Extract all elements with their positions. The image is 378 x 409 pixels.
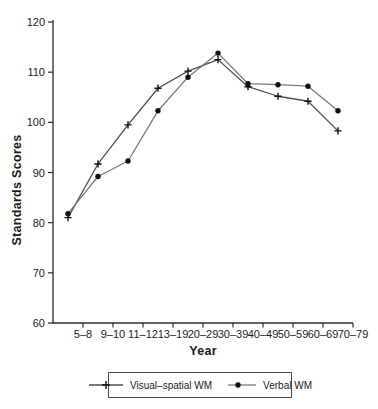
series-line-visual-spatial-wm [68,60,338,218]
y-tick-label: 70 [33,267,45,279]
circle-marker-verbal-wm [335,108,340,113]
y-tick-label: 60 [33,317,45,329]
x-tick-label: 13–19 [158,328,189,340]
y-tick-label: 80 [33,217,45,229]
x-tick-label: 9–10 [101,328,125,340]
y-tick-label: 100 [27,116,45,128]
plus-line-marker-icon [88,380,124,390]
y-tick-label: 120 [27,16,45,28]
chart-figure: Standards Scores 607080901001101205–89–1… [0,0,378,409]
y-tick-label: 90 [33,167,45,179]
x-tick-label: 70–79 [338,328,369,340]
y-tick-label: 110 [27,66,45,78]
x-tick-label: 20–29 [188,328,219,340]
circle-marker-verbal-wm [125,158,130,163]
circle-marker-verbal-wm [155,108,160,113]
plus-marker-visual-spatial-wm [184,68,191,75]
legend-label-visual-spatial-wm: Visual–spatial WM [130,380,212,391]
x-axis-title: Year [53,344,353,358]
circle-marker-verbal-wm [245,81,250,86]
circle-marker-verbal-wm [95,174,100,179]
circle-marker-verbal-wm [185,74,190,79]
x-tick-label: 30–39 [218,328,249,340]
plot-area: 607080901001101205–89–1011–1213–1920–293… [0,0,378,344]
x-tick-label: 11–12 [128,328,158,340]
circle-marker-verbal-wm [275,82,280,87]
circle-marker-verbal-wm [215,50,220,55]
plus-marker-visual-spatial-wm [274,93,281,100]
legend-item-visual-spatial-wm: Visual–spatial WM [88,380,212,391]
x-tick-label: 50–59 [278,328,309,340]
x-tick-label: 60–69 [308,328,339,340]
legend: Visual–spatial WM Verbal WM [108,372,292,398]
x-tick-label: 5–8 [74,328,92,340]
legend-item-verbal-wm: Verbal WM [227,380,312,391]
circle-line-marker-icon [227,380,257,390]
circle-marker-verbal-wm [305,84,310,89]
legend-label-verbal-wm: Verbal WM [263,380,312,391]
circle-marker-verbal-wm [65,211,70,216]
series-line-verbal-wm [68,53,338,214]
x-tick-label: 40–49 [248,328,279,340]
